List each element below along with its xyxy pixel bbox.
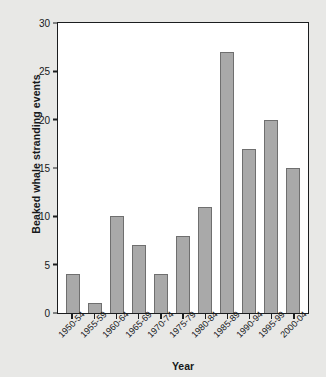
x-axis-label-slot: 1985-89 xyxy=(216,320,238,360)
plot-area: 051015202530 xyxy=(57,22,309,314)
x-axis-title: Year xyxy=(57,360,309,372)
bar[interactable] xyxy=(264,120,278,313)
bar-slot xyxy=(260,23,282,313)
x-axis-label-slot: 1965-69 xyxy=(128,320,150,360)
y-axis-tick: 0 xyxy=(44,308,58,319)
y-axis-tick: 20 xyxy=(39,114,58,125)
bar-slot xyxy=(172,23,194,313)
bar[interactable] xyxy=(66,274,80,313)
y-axis-tick-mark xyxy=(53,71,58,72)
bar-slot xyxy=(62,23,84,313)
y-axis-tick: 15 xyxy=(39,163,58,174)
bar-slot xyxy=(238,23,260,313)
y-axis-tick-mark xyxy=(53,264,58,265)
bar[interactable] xyxy=(154,274,168,313)
bar-slot xyxy=(106,23,128,313)
bar[interactable] xyxy=(110,216,124,313)
y-axis-tick-label: 30 xyxy=(39,18,53,29)
bar[interactable] xyxy=(242,149,256,313)
y-axis-tick: 25 xyxy=(39,66,58,77)
bar-slot xyxy=(216,23,238,313)
x-axis-label-slot: 1995-99 xyxy=(261,320,283,360)
bar[interactable] xyxy=(220,52,234,313)
y-axis-tick: 5 xyxy=(44,259,58,270)
bar-slot xyxy=(128,23,150,313)
y-axis-tick-label: 10 xyxy=(39,211,53,222)
bar[interactable] xyxy=(286,168,300,313)
y-axis-tick-mark xyxy=(53,119,58,120)
bar-slot xyxy=(194,23,216,313)
x-axis-label-slot: 1970-74 xyxy=(150,320,172,360)
y-axis-tick-mark xyxy=(53,22,58,23)
bar-slot xyxy=(282,23,304,313)
y-axis-tick-mark xyxy=(53,216,58,217)
y-axis-tick: 10 xyxy=(39,211,58,222)
x-axis-label-slot: 1955-59 xyxy=(83,320,105,360)
y-axis-tick-mark xyxy=(53,167,58,168)
bar[interactable] xyxy=(132,245,146,313)
chart-figure: Beaked whale stranding events 0510152025… xyxy=(0,0,326,377)
bar-series xyxy=(58,23,308,313)
x-axis-tick-labels: 1950-541955-591960-641965-691970-741975-… xyxy=(57,320,309,360)
x-axis-label-slot: 2000-04 xyxy=(283,320,305,360)
x-axis-label-slot: 1990-94 xyxy=(239,320,261,360)
bar[interactable] xyxy=(198,207,212,313)
x-axis-label-slot: 1975-79 xyxy=(172,320,194,360)
x-axis-label-slot: 1980-84 xyxy=(194,320,216,360)
y-axis-tick: 30 xyxy=(39,18,58,29)
bar[interactable] xyxy=(176,236,190,313)
x-axis-label-slot: 1960-64 xyxy=(105,320,127,360)
y-axis-tick-label: 20 xyxy=(39,114,53,125)
y-axis-tick-label: 15 xyxy=(39,163,53,174)
bar-slot xyxy=(150,23,172,313)
bar-slot xyxy=(84,23,106,313)
y-axis-tick-label: 5 xyxy=(44,259,53,270)
x-axis-label-slot: 1950-54 xyxy=(61,320,83,360)
y-axis-tick-label: 25 xyxy=(39,66,53,77)
y-axis-tick-label: 0 xyxy=(44,308,53,319)
